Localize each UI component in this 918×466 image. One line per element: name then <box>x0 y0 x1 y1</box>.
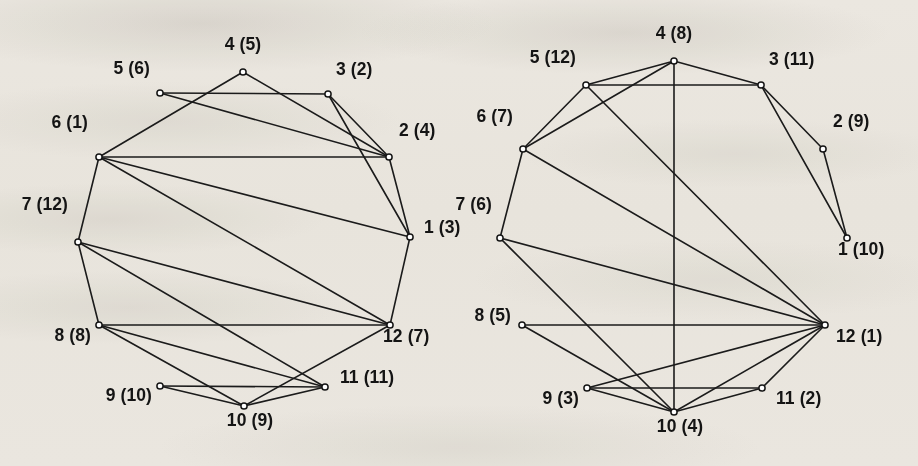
graph-node-r7[interactable] <box>497 235 503 241</box>
graph-edge <box>99 157 390 325</box>
graph-node-l7[interactable] <box>75 239 81 245</box>
graph-node-r6[interactable] <box>520 146 526 152</box>
graph-node-r3[interactable] <box>758 82 764 88</box>
node-label-r12: 12 (1) <box>836 328 882 346</box>
node-label-r8: 8 (5) <box>0 307 511 325</box>
node-label-l10: 10 (9) <box>190 412 310 430</box>
node-label-r2: 2 (9) <box>833 113 869 131</box>
graph-node-r11[interactable] <box>759 385 765 391</box>
graph-edge <box>823 149 847 238</box>
graph-node-r9[interactable] <box>584 385 590 391</box>
graph-edge <box>500 149 523 238</box>
graph-edge <box>500 238 825 325</box>
graph-node-l1[interactable] <box>407 234 413 240</box>
graph-edge <box>586 85 825 325</box>
figure-container: 1 (3)2 (4)3 (2)4 (5)5 (6)6 (1)7 (12)8 (8… <box>0 0 918 466</box>
node-label-r9: 9 (3) <box>0 390 579 408</box>
graph-node-r12[interactable] <box>822 322 828 328</box>
node-label-r11: 11 (2) <box>776 390 821 408</box>
graph-node-l4[interactable] <box>240 69 246 75</box>
graph-edge <box>523 61 674 149</box>
graph-node-r8[interactable] <box>519 322 525 328</box>
graph-node-r10[interactable] <box>671 409 677 415</box>
node-label-r1: 1 (10) <box>838 241 884 259</box>
node-label-r3: 3 (11) <box>769 51 814 69</box>
node-label-l12: 12 (7) <box>383 328 429 346</box>
graph-node-l6[interactable] <box>96 154 102 160</box>
node-label-l11: 11 (11) <box>340 369 394 387</box>
node-label-r5: 5 (12) <box>0 49 576 67</box>
graph-node-r2[interactable] <box>820 146 826 152</box>
right-graph-edges <box>500 61 847 412</box>
graph-node-l3[interactable] <box>325 91 331 97</box>
graph-edge <box>160 93 328 94</box>
graph-edge <box>160 386 325 387</box>
graph-edge <box>761 85 847 238</box>
graph-node-l5[interactable] <box>157 90 163 96</box>
graph-edge <box>587 325 825 388</box>
graph-node-l2[interactable] <box>386 154 392 160</box>
node-label-r7: 7 (6) <box>0 196 492 214</box>
graph-node-l9[interactable] <box>157 383 163 389</box>
node-label-r4: 4 (8) <box>614 25 734 43</box>
graph-edge <box>586 61 674 85</box>
node-label-l8: 8 (8) <box>0 327 91 345</box>
graph-edge <box>674 388 762 412</box>
graph-edge <box>99 325 325 387</box>
graph-edge <box>674 61 761 85</box>
graph-node-r4[interactable] <box>671 58 677 64</box>
node-label-r6: 6 (7) <box>0 108 513 126</box>
node-label-l1: 1 (3) <box>424 219 460 237</box>
graph-node-r5[interactable] <box>583 82 589 88</box>
node-label-r10: 10 (4) <box>620 418 740 436</box>
